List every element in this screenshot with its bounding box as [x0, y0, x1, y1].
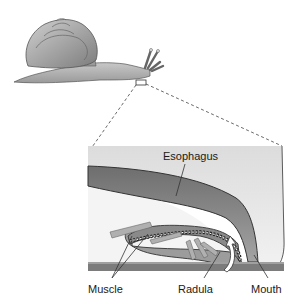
label-esophagus: Esophagus: [163, 150, 218, 162]
snail-radula-diagram: [0, 0, 302, 306]
snail: [14, 19, 163, 85]
zoom-region-box: [136, 80, 146, 85]
tentacles: [145, 50, 163, 71]
zoom-lines: [90, 84, 282, 150]
snail-shell: [26, 19, 97, 68]
label-radula: Radula: [178, 283, 213, 295]
label-muscle: Muscle: [88, 283, 123, 295]
cross-section: [88, 146, 284, 272]
label-mouth: Mouth: [251, 283, 282, 295]
